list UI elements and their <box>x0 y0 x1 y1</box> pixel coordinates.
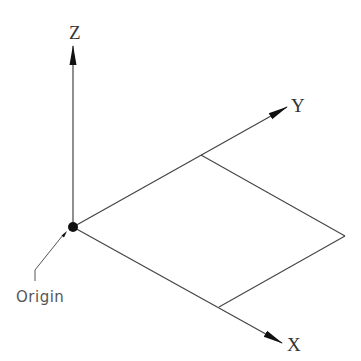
origin-label: Origin <box>16 288 64 306</box>
x-axis: X <box>73 227 301 355</box>
x-axis-label: X <box>287 334 301 355</box>
plane-edge-corner-to-x <box>219 236 345 307</box>
axes-diagram: Z Y X Origin <box>0 0 361 361</box>
x-axis-line <box>73 227 282 343</box>
origin-leader <box>35 231 67 281</box>
z-axis: Z <box>69 22 81 227</box>
y-axis-label: Y <box>291 95 305 116</box>
z-axis-label: Z <box>69 22 81 43</box>
y-axis: Y <box>73 95 305 227</box>
diagram-canvas: Z Y X Origin <box>0 0 361 361</box>
origin-leader-line <box>35 235 63 281</box>
origin-point <box>68 222 78 232</box>
y-axis-line <box>73 107 287 227</box>
xy-plane <box>201 155 345 307</box>
plane-edge-y-to-corner <box>201 155 345 236</box>
